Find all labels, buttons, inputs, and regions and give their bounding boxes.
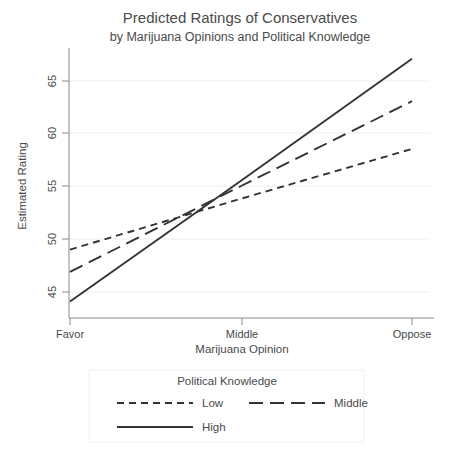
legend-label-low: Low [202, 397, 224, 409]
y-tick-label-60: 60 [46, 127, 58, 139]
legend-label-middle: Middle [334, 397, 368, 409]
chart-title: Predicted Ratings of Conservatives [123, 9, 357, 26]
chart-figure: Predicted Ratings of Conservatives by Ma… [0, 0, 452, 452]
y-tick-label-55: 55 [46, 180, 58, 192]
x-tick-label-oppose: Oppose [393, 328, 432, 340]
y-tick-label-45: 45 [46, 286, 58, 298]
x-tick-label-middle: Middle [226, 328, 258, 340]
x-tick-label-favor: Favor [56, 328, 84, 340]
y-tick-label-65: 65 [46, 75, 58, 87]
chart-subtitle: by Marijuana Opinions and Political Know… [110, 30, 371, 44]
legend-label-high: High [202, 421, 226, 433]
legend-title: Political Knowledge [177, 375, 277, 387]
x-axis-title: Marijuana Opinion [195, 343, 288, 355]
y-axis-title: Estimated Rating [16, 142, 28, 230]
y-tick-label-50: 50 [46, 233, 58, 245]
